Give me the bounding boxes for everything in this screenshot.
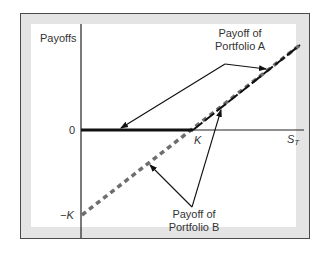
portfolio-a-rising-segment bbox=[193, 45, 300, 130]
annotation-portfolio-a: Payoff of Portfolio A bbox=[200, 27, 280, 53]
annotation-a-line1: Payoff of bbox=[200, 27, 280, 40]
y-axis-label: Payoffs bbox=[40, 32, 77, 45]
annotation-a-line2: Portfolio A bbox=[200, 40, 280, 53]
tick-k-label: K bbox=[194, 134, 201, 147]
annotation-portfolio-b: Payoff of Portfolio B bbox=[159, 208, 229, 234]
portfolio-a-arrow-right bbox=[225, 64, 266, 69]
annotation-b-line1: Payoff of bbox=[159, 208, 229, 221]
portfolio-a-arrow-left bbox=[121, 64, 225, 128]
x-axis-label: ST bbox=[287, 133, 299, 149]
tick-neg-k-label: −K bbox=[60, 209, 74, 222]
portfolio-b-arrow-left bbox=[150, 165, 192, 207]
tick-zero-label: 0 bbox=[69, 124, 75, 137]
x-axis-label-sub: T bbox=[294, 138, 299, 147]
annotation-b-line2: Portfolio B bbox=[159, 221, 229, 234]
